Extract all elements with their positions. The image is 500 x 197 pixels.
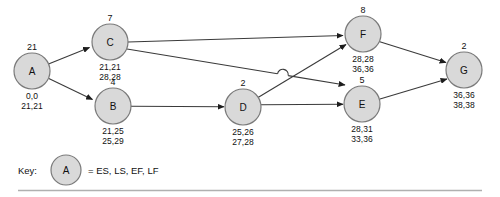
node-c-times-top: 21,21 xyxy=(99,62,121,72)
node-f[interactable]: 8 F 28,28 36,36 xyxy=(345,5,381,74)
node-f-times-bottom: 36,36 xyxy=(352,64,374,74)
node-d-times-bottom: 27,28 xyxy=(232,137,254,147)
node-e-label: E xyxy=(359,99,366,110)
node-a-label: A xyxy=(29,66,36,77)
edge-c-f xyxy=(128,36,343,43)
node-a-times-bottom: 21,21 xyxy=(21,101,43,111)
node-c-label: C xyxy=(106,37,113,48)
network-diagram-page: 21 A 0,0 21,21 7 C 21,21 28,28 4 B 21,25… xyxy=(0,0,500,197)
node-f-label: F xyxy=(360,29,366,40)
network-diagram: 21 A 0,0 21,21 7 C 21,21 28,28 4 B 21,25… xyxy=(0,0,500,197)
edge-d-e xyxy=(261,104,343,105)
node-e-times-bottom: 33,36 xyxy=(351,134,373,144)
node-b-duration: 4 xyxy=(110,77,115,87)
node-d[interactable]: 2 D 25,26 27,28 xyxy=(225,78,261,147)
key-label: Key: xyxy=(18,165,37,176)
node-g-times-bottom: 38,38 xyxy=(453,100,475,110)
edge-crossing-hop xyxy=(278,69,289,75)
node-d-duration: 2 xyxy=(240,78,245,88)
node-c[interactable]: 7 C 21,21 28,28 xyxy=(92,13,128,82)
node-b-times-bottom: 25,29 xyxy=(102,136,124,146)
node-g-duration: 2 xyxy=(461,41,466,51)
node-f-times-top: 28,28 xyxy=(352,54,374,64)
node-g[interactable]: 2 G 36,36 38,38 xyxy=(446,41,482,110)
node-d-times-top: 25,26 xyxy=(232,127,254,137)
node-c-duration: 7 xyxy=(107,13,112,23)
key-legend: Key: A = ES, LS, EF, LF xyxy=(18,155,159,185)
edge-d-f xyxy=(258,45,346,98)
node-a-duration: 21 xyxy=(27,42,37,52)
node-a[interactable]: 21 A 0,0 21,21 xyxy=(14,42,50,111)
edge-c-e-segment-2 xyxy=(288,76,345,85)
edge-a-c xyxy=(49,48,90,65)
edge-e-g xyxy=(380,79,447,99)
node-e-times-top: 28,31 xyxy=(351,124,373,134)
node-b-label: B xyxy=(110,101,117,112)
node-f-duration: 8 xyxy=(360,5,365,15)
node-g-label: G xyxy=(460,65,468,76)
node-e[interactable]: 5 E 28,31 33,36 xyxy=(344,75,380,144)
node-d-label: D xyxy=(239,102,246,113)
key-node-letter: A xyxy=(63,165,70,176)
edge-b-d xyxy=(131,106,224,107)
node-b[interactable]: 4 B 21,25 25,29 xyxy=(95,77,131,146)
edge-f-g xyxy=(379,42,446,63)
key-equals-text: = ES, LS, EF, LF xyxy=(88,165,159,176)
node-e-duration: 5 xyxy=(359,75,364,85)
node-a-times-top: 0,0 xyxy=(26,91,38,101)
node-g-times-top: 36,36 xyxy=(453,90,475,100)
edge-c-e-segment-1 xyxy=(127,49,278,74)
node-b-times-top: 21,25 xyxy=(102,126,124,136)
edge-a-b xyxy=(49,79,93,100)
